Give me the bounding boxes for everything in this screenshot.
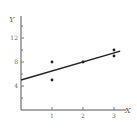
x-tick-label: 3 bbox=[112, 112, 116, 119]
y-tick-label: 8 bbox=[14, 58, 18, 65]
axes bbox=[21, 16, 126, 110]
x-tick-label: 1 bbox=[50, 112, 54, 119]
data-points bbox=[51, 49, 116, 82]
y-axis-label: Y bbox=[9, 15, 15, 24]
ticks: 1234812 bbox=[10, 26, 116, 119]
y-tick-label: 4 bbox=[14, 82, 18, 89]
regression-line bbox=[21, 51, 120, 80]
data-point bbox=[113, 49, 116, 52]
data-point bbox=[113, 55, 116, 58]
y-tick-label: 12 bbox=[10, 34, 18, 41]
x-tick-label: 2 bbox=[81, 112, 85, 119]
data-point bbox=[51, 61, 54, 64]
data-point bbox=[82, 61, 85, 64]
x-axis-label: X bbox=[124, 106, 131, 115]
fit-line-group bbox=[21, 51, 120, 80]
scatter-chart: 1234812 Y X bbox=[0, 0, 137, 128]
data-point bbox=[51, 79, 54, 82]
